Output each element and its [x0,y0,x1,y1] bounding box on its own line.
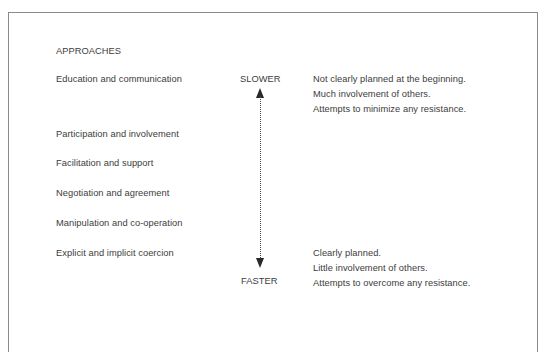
approach-participation: Participation and involvement [56,129,179,140]
faster-label: FASTER [241,276,277,287]
approaches-heading: APPROACHES [56,46,121,57]
approach-facilitation: Facilitation and support [56,158,153,169]
diagram-frame [8,12,538,352]
faster-characteristic-2: Little involvement of others. [313,263,428,274]
approach-education: Education and communication [56,74,182,85]
faster-characteristic-1: Clearly planned. [313,248,381,259]
arrow-down-icon [256,258,264,268]
faster-characteristic-3: Attempts to overcome any resistance. [313,278,470,289]
slower-characteristic-3: Attempts to minimize any resistance. [313,104,466,115]
approach-negotiation: Negotiation and agreement [56,188,169,199]
slower-label: SLOWER [240,74,281,85]
slower-characteristic-2: Much involvement of others. [313,89,431,100]
approach-manipulation: Manipulation and co-operation [56,218,183,229]
slower-characteristic-1: Not clearly planned at the beginning. [313,74,466,85]
approach-coercion: Explicit and implicit coercion [56,248,174,259]
speed-axis-line [260,96,261,260]
